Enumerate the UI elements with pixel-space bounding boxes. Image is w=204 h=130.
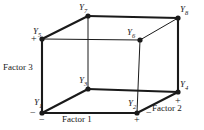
sign-factor1-high-axis: + (134, 115, 140, 125)
vertex-label-y8: Y8 (180, 5, 188, 16)
sign-factor3-high: + (31, 34, 37, 44)
vertex-label-y6: Y6 (127, 28, 135, 39)
vertex-label-y7: Y7 (79, 3, 87, 14)
vertex-label-y4: Y4 (180, 80, 188, 91)
sign-factor1-low: − (30, 108, 36, 118)
cube-thin-edges (42, 16, 178, 113)
factorial-design-cube-figure: Y5 Y7 Y8 Y6 Y3 Y4 Y1 Y2 + − − + − + Fact… (0, 0, 204, 130)
edge-y5-y7 (42, 16, 88, 39)
edge-y1-y3 (42, 89, 88, 113)
vertex-label-y2: Y2 (128, 99, 136, 110)
edge-y7-y8 (88, 16, 178, 18)
vertex-label-y3: Y3 (79, 76, 87, 87)
sign-factor2-low: − (146, 108, 152, 118)
edge-y2-y6 (137, 40, 140, 113)
axis-label-factor1: Factor 1 (62, 115, 92, 124)
cube-thick-edges (42, 16, 178, 113)
edge-y6-y8 (140, 18, 178, 40)
sign-factor1-low-axis: − (39, 115, 45, 125)
axis-label-factor3: Factor 3 (3, 63, 33, 72)
edge-y5-y6 (42, 39, 140, 40)
vertex-dot-y6 (137, 37, 142, 42)
axis-label-factor2: Factor 2 (152, 104, 182, 113)
edge-y3-y4 (88, 89, 178, 92)
